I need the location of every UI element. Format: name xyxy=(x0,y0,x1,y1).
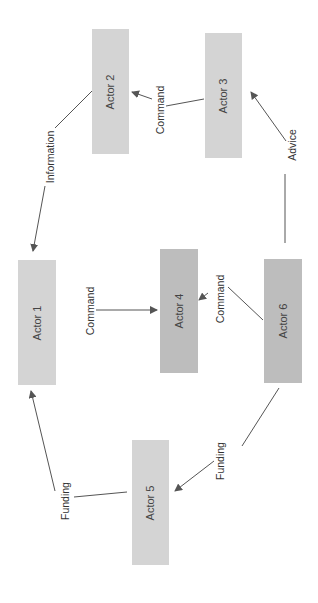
node-actor-1[interactable]: Actor 1 xyxy=(18,260,56,385)
node-label: Actor 3 xyxy=(217,78,229,113)
edge-command-3-2 xyxy=(132,92,204,106)
edge-funding-6-5 xyxy=(175,388,279,491)
edge-label-command-1-4: Command xyxy=(84,281,96,341)
edge-label-command-3-2: Command xyxy=(154,80,166,140)
node-label: Actor 5 xyxy=(144,485,156,520)
node-label: Actor 2 xyxy=(104,74,116,109)
edge-label-information: Information xyxy=(44,127,56,187)
edge-label-funding-6-5: Funding xyxy=(214,431,226,491)
node-label: Actor 1 xyxy=(31,305,43,340)
edge-command-6-4 xyxy=(199,287,263,320)
node-actor-2[interactable]: Actor 2 xyxy=(92,29,129,154)
edge-advice xyxy=(251,92,286,243)
edge-label-command-6-4: Command xyxy=(214,269,226,329)
edge-information xyxy=(33,91,92,251)
edge-funding-5-1 xyxy=(31,391,127,497)
node-actor-3[interactable]: Actor 3 xyxy=(205,33,242,158)
node-actor-4[interactable]: Actor 4 xyxy=(160,249,198,373)
edge-label-funding-5-1: Funding xyxy=(59,471,71,531)
node-actor-5[interactable]: Actor 5 xyxy=(132,440,169,565)
node-actor-6[interactable]: Actor 6 xyxy=(264,259,302,383)
node-label: Actor 4 xyxy=(173,294,185,329)
edge-label-advice: Advice xyxy=(286,115,298,175)
node-label: Actor 6 xyxy=(277,304,289,339)
